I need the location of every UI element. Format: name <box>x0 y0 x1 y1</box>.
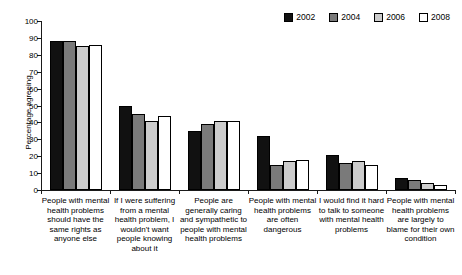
y-tick-label: 10 <box>29 169 38 178</box>
y-tick-label: 70 <box>29 67 38 76</box>
bar-group <box>119 21 171 190</box>
x-tick-mark <box>317 190 318 194</box>
bar-2008 <box>158 116 171 190</box>
category-label: People with mental health problems are l… <box>386 196 455 244</box>
bar-chart: 2002200420062008 Percentage agreeing 010… <box>0 0 462 275</box>
y-tick-label: 90 <box>29 33 38 42</box>
category-label: People with mental health problems shoul… <box>41 196 110 244</box>
bar-group <box>50 21 102 190</box>
category-label: People are generally caring and sympathe… <box>179 196 248 244</box>
bar-2008 <box>227 121 240 190</box>
bar-2004 <box>339 163 352 190</box>
bar-2004 <box>201 124 214 190</box>
bar-2002 <box>188 131 201 190</box>
category-label: People with mental health problems are o… <box>248 196 317 234</box>
x-tick-mark <box>386 190 387 194</box>
category-label: I would find it hard to talk to someone … <box>317 196 386 234</box>
x-tick-mark <box>179 190 180 194</box>
bar-2002 <box>119 106 132 191</box>
bar-2006 <box>214 121 227 190</box>
bar-2004 <box>63 41 76 190</box>
y-tick-label: 40 <box>29 118 38 127</box>
bar-2002 <box>257 136 270 190</box>
bar-2006 <box>76 46 89 190</box>
plot-area: 0102030405060708090100 <box>41 21 455 190</box>
bar-group <box>188 21 240 190</box>
category-label: If I were suffering from a mental health… <box>110 196 179 254</box>
bar-group <box>395 21 447 190</box>
y-tick-label: 30 <box>29 135 38 144</box>
x-axis-category-labels: People with mental health problems shoul… <box>41 196 455 275</box>
y-tick-label: 0 <box>34 186 38 195</box>
bar-2008 <box>365 165 378 190</box>
bar-2008 <box>434 185 447 190</box>
y-tick-label: 80 <box>29 50 38 59</box>
x-tick-mark <box>110 190 111 194</box>
bar-2006 <box>145 121 158 190</box>
bar-2006 <box>352 161 365 190</box>
bar-group <box>257 21 309 190</box>
y-tick-label: 60 <box>29 84 38 93</box>
bar-2008 <box>296 160 309 190</box>
bar-2002 <box>395 178 408 190</box>
x-tick-mark <box>248 190 249 194</box>
bar-2008 <box>89 45 102 190</box>
bar-2006 <box>283 161 296 190</box>
bar-group <box>326 21 378 190</box>
y-tick-label: 50 <box>29 101 38 110</box>
bar-2004 <box>132 114 145 190</box>
bar-2002 <box>50 41 63 190</box>
x-tick-mark <box>41 190 42 194</box>
y-tick-label: 100 <box>25 17 38 26</box>
y-axis-line <box>41 21 42 190</box>
bar-2004 <box>408 180 421 190</box>
bar-2006 <box>421 183 434 190</box>
bar-2002 <box>326 155 339 190</box>
y-tick-label: 20 <box>29 152 38 161</box>
x-tick-mark <box>455 190 456 194</box>
bar-2004 <box>270 165 283 190</box>
